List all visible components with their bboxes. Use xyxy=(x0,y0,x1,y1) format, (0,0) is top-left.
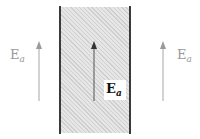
field-arrows xyxy=(0,0,200,139)
center-field-label: Ea xyxy=(106,82,122,100)
diagram-canvas: Ea Ea Ea xyxy=(0,0,200,139)
center-arrow-icon xyxy=(91,41,97,101)
right-field-label: Ea xyxy=(177,48,192,66)
left-arrow-icon xyxy=(36,41,42,101)
right-arrow-icon xyxy=(160,41,166,101)
left-field-label: Ea xyxy=(10,48,25,66)
